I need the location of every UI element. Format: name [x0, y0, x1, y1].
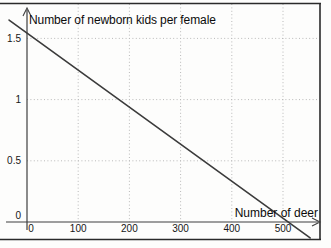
x-axis-label: Number of deer	[235, 206, 318, 220]
x-tick-label: 0	[28, 223, 34, 234]
chart-title: Number of newborn kids per female	[29, 13, 216, 27]
x-tick-label: 300	[172, 223, 189, 234]
x-tick-label: 500	[275, 223, 292, 234]
y-tick-label: 0	[15, 210, 21, 221]
x-tick-label: 100	[70, 223, 87, 234]
y-tick-label: 1.5	[7, 33, 21, 44]
x-tick-label: 200	[121, 223, 138, 234]
y-tick-label: 0.5	[7, 155, 21, 166]
chart-figure: 010020030040050000.511.5 Number of newbo…	[0, 0, 331, 248]
y-tick-label: 1	[15, 94, 21, 105]
x-tick-label: 400	[223, 223, 240, 234]
